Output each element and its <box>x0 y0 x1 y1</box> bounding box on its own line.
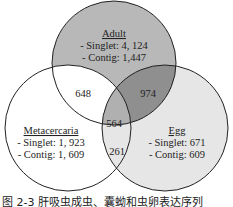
egg-contig: - Contig: 609 <box>149 149 205 160</box>
egg-singlet: - Singlet: 671 <box>148 137 205 148</box>
adult-contig: - Contig: 1,447 <box>82 52 146 63</box>
metacercaria-contig: - Contig: 1, 609 <box>18 149 85 160</box>
metacercaria-singlet: - Singlet: 1, 923 <box>17 137 85 148</box>
figure-caption: 图 2-3 肝吸虫成虫、囊蚴和虫卵表达序列 <box>2 195 203 207</box>
adult-metacercaria-count: 648 <box>75 88 91 99</box>
egg-title: Egg <box>169 125 187 136</box>
adult-singlet: - Singlet: 4, 124 <box>80 40 148 51</box>
adult-egg-count: 974 <box>140 88 157 99</box>
metacercaria-title: Metacercaria <box>24 125 79 136</box>
venn-diagram: Adult - Singlet: 4, 124 - Contig: 1,447 … <box>0 0 233 207</box>
triple-count: 564 <box>106 118 123 129</box>
adult-title: Adult <box>102 28 126 39</box>
metacercaria-egg-count: 261 <box>109 146 125 157</box>
